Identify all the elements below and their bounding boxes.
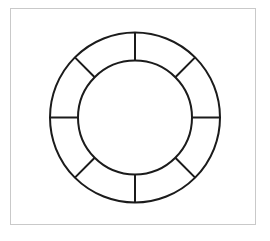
figure-canvas: [0, 0, 270, 241]
spoke-lower-right: [175, 158, 195, 178]
spoke-group: [50, 33, 220, 203]
segmented-annulus-figure: [0, 0, 270, 241]
spoke-upper-left: [75, 57, 95, 77]
spoke-lower-left: [75, 158, 95, 178]
spoke-upper-right: [175, 57, 195, 77]
inner-circle: [78, 61, 192, 175]
